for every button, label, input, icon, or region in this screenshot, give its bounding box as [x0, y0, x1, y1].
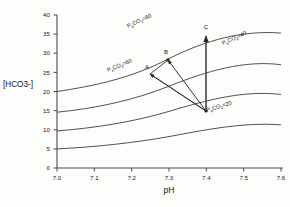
x-tick-label-70: 7.0 — [53, 174, 62, 181]
y-tick-label-35: 35 — [43, 30, 50, 37]
segment-a-origin — [150, 74, 206, 111]
y-axis-title: [HCO3-] — [3, 80, 33, 89]
vector-to-point-b — [168, 60, 206, 111]
y-tick-label-5: 5 — [47, 145, 51, 152]
y-tick-label-40: 40 — [43, 11, 50, 18]
curve-label-paco2-80: PaCO2=80 — [126, 12, 153, 30]
chart-figure: 0 5 10 15 20 25 30 35 40 7.0 7.1 7.2 7.3… — [0, 0, 290, 207]
segment-a-b — [150, 60, 168, 74]
data-point-origin — [204, 109, 207, 112]
y-tick-label-25: 25 — [43, 69, 50, 76]
x-tick-label-72: 7.2 — [127, 174, 136, 181]
x-tick-label-76: 7.6 — [277, 174, 286, 181]
x-tick-label-74: 7.4 — [202, 174, 211, 181]
y-tick-label-0: 0 — [47, 164, 51, 171]
isobar-curve-paco2-60 — [57, 64, 281, 113]
y-tick-label-20: 20 — [43, 88, 50, 95]
x-tick-label-73: 7.3 — [165, 174, 174, 181]
curve-label-paco2-40: PaCO2=40 — [221, 30, 248, 48]
curve-label-paco2-20: PaCO2=20 — [206, 100, 233, 115]
svg-text:PaCO2=80: PaCO2=80 — [126, 12, 153, 30]
acid-base-diagram: 0 5 10 15 20 25 30 35 40 7.0 7.1 7.2 7.3… — [0, 0, 290, 207]
y-tick-label-30: 30 — [43, 49, 50, 56]
svg-text:PaCO2=40: PaCO2=40 — [221, 30, 248, 48]
lbl60-eq: =60 — [122, 58, 133, 67]
x-axis-title: pH — [164, 185, 175, 195]
point-label-c: C — [204, 24, 209, 30]
x-tick-label-71: 7.1 — [90, 174, 99, 181]
lbl40-eq: =40 — [236, 30, 247, 39]
point-label-a: A — [145, 64, 149, 70]
curve-label-paco2-60: PaCO2=60 — [106, 58, 133, 75]
lbl80-eq: =80 — [141, 12, 152, 21]
svg-text:PaCO2=60: PaCO2=60 — [106, 58, 133, 75]
isobar-curve-paco2-40 — [57, 93, 281, 131]
svg-text:PaCO2=20: PaCO2=20 — [206, 100, 233, 115]
point-label-b: B — [164, 49, 168, 55]
x-tick-label-75: 7.5 — [239, 174, 248, 181]
y-tick-label-10: 10 — [43, 126, 50, 133]
data-point-b — [166, 58, 169, 61]
y-tick-label-15: 15 — [43, 107, 50, 114]
lbl20-eq: =20 — [221, 100, 232, 109]
